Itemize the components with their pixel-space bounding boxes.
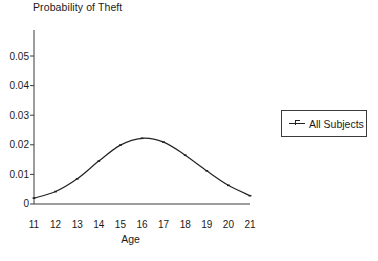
y-tick-label: 0.01	[10, 169, 29, 180]
legend-line-marker-icon	[289, 119, 305, 128]
x-tick-label: 11	[29, 219, 39, 230]
x-tick-label: 18	[180, 219, 191, 230]
y-axis-tick-labels: 0 0.01 0.02 0.03 0.04 0.05	[0, 0, 29, 261]
x-tick-label: 13	[72, 219, 83, 230]
chart-figure: Probability of Theft 0 0.01 0.02 0.03 0.…	[0, 0, 378, 261]
y-tick-label: 0	[23, 198, 29, 209]
x-tick-label: 19	[201, 219, 212, 230]
y-tick-label: 0.04	[10, 80, 29, 91]
chart-title: Probability of Theft	[33, 1, 122, 13]
legend-label-all-subjects: All Subjects	[309, 118, 364, 130]
y-tick-label: 0.02	[10, 139, 29, 150]
series-line-all-subjects	[34, 138, 250, 198]
y-tick-label: 0.05	[10, 51, 29, 62]
x-axis-label: Age	[0, 233, 261, 245]
y-tick-label: 0.03	[10, 110, 29, 121]
x-tick-label: 12	[50, 219, 61, 230]
series-markers-all-subjects	[33, 138, 252, 198]
x-tick-label: 17	[158, 219, 169, 230]
x-tick-label: 15	[115, 219, 126, 230]
x-tick-label: 21	[244, 219, 255, 230]
x-tick-label: 20	[223, 219, 234, 230]
legend[interactable]: All Subjects	[281, 110, 367, 137]
x-tick-label: 16	[136, 219, 147, 230]
x-tick-label: 14	[93, 219, 104, 230]
y-axis-ticks	[30, 56, 34, 204]
